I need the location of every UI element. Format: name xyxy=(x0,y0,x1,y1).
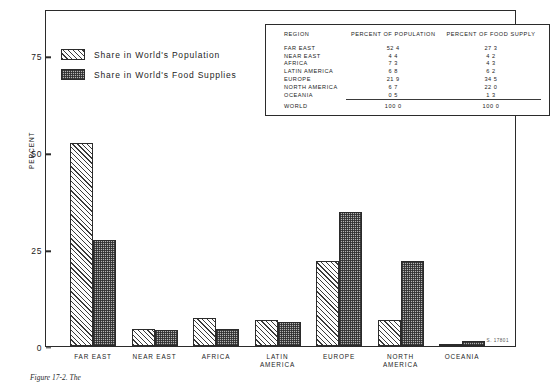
plate-note: S. 17801 xyxy=(487,338,509,343)
x-axis-category-label: AFRICA xyxy=(202,353,231,361)
x-axis-category-label: OCEANIA xyxy=(445,353,480,361)
bars-layer: FAR EASTNEAR EASTAFRICALATINAMERICAEUROP… xyxy=(46,11,515,346)
bar-population xyxy=(378,320,401,346)
y-axis-tick-label: 75 xyxy=(31,52,46,62)
bar-group: EUROPE xyxy=(312,212,366,346)
x-axis-category-label: LATINAMERICA xyxy=(260,353,295,369)
bar-food-supply xyxy=(401,261,424,346)
figure-caption: Figure 17-2. The xyxy=(30,373,81,382)
y-axis-tick-label: 25 xyxy=(31,246,46,256)
bar-population xyxy=(193,318,216,346)
bar-food-supply xyxy=(93,240,116,346)
bar-food-supply xyxy=(278,322,301,346)
bar-group: NEAR EAST xyxy=(128,329,182,346)
y-axis-tick-label: 50 xyxy=(31,149,46,159)
bar-group: FAR EAST xyxy=(66,143,120,346)
plot-frame: PERCENT 0255075 Share in World's Populat… xyxy=(45,10,516,347)
bar-food-supply xyxy=(339,212,362,346)
x-axis-category-label: NEAR EAST xyxy=(133,353,177,361)
x-axis-category-label: EUROPE xyxy=(323,353,355,361)
bar-group: OCEANIA xyxy=(435,341,489,346)
y-axis-tick-mark xyxy=(46,347,51,348)
bar-population xyxy=(439,344,462,346)
bar-population xyxy=(70,143,93,346)
bar-population xyxy=(132,329,155,346)
bar-population xyxy=(316,261,339,346)
bar-food-supply xyxy=(462,341,485,346)
y-axis-tick-label: 0 xyxy=(37,343,46,353)
bar-population xyxy=(255,320,278,346)
bar-group: NORTHAMERICA xyxy=(374,261,428,346)
bar-food-supply xyxy=(155,330,178,346)
bar-group: AFRICA xyxy=(189,318,243,346)
x-axis-category-label: FAR EAST xyxy=(74,353,112,361)
bar-food-supply xyxy=(216,329,239,346)
x-axis-category-label: NORTHAMERICA xyxy=(383,353,418,369)
bar-group: LATINAMERICA xyxy=(251,320,305,346)
